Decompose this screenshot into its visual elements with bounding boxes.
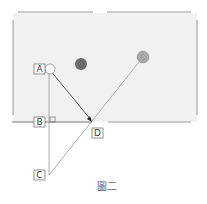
label-c-text: C [36, 170, 42, 180]
target-ball [137, 51, 149, 63]
label-c: C [34, 170, 45, 180]
label-a-text: A [36, 64, 43, 74]
figure-caption: 圖二 [97, 181, 117, 192]
label-d: D [92, 128, 103, 138]
label-a: A [34, 64, 45, 74]
label-b: B [34, 117, 45, 127]
label-d-text: D [94, 128, 101, 138]
cue-ball [45, 64, 55, 74]
diagram-canvas: A B C D 圖二 [0, 0, 207, 204]
label-b-text: B [36, 117, 42, 127]
dark-ball [75, 58, 87, 70]
